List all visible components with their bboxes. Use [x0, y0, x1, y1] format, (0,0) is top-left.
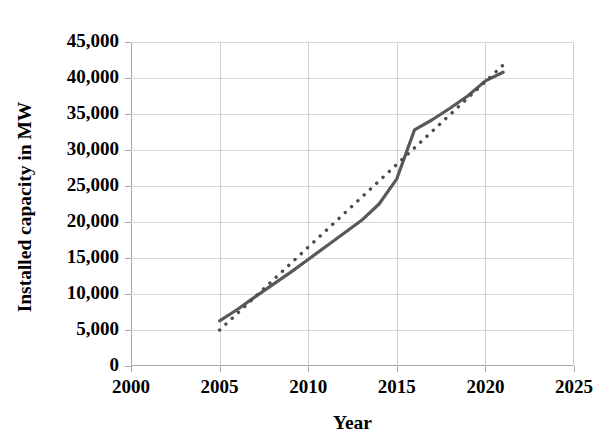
x-axis-tick-label: 2010 — [263, 376, 353, 398]
x-axis-tick — [397, 366, 398, 372]
y-axis-tick-label: 45,000 — [9, 30, 119, 52]
y-axis-tick-label: 40,000 — [9, 66, 119, 88]
x-axis-tick — [220, 366, 221, 372]
x-axis-tick — [308, 366, 309, 372]
y-axis-tick-label: 5,000 — [9, 318, 119, 340]
y-axis-tick-label: 15,000 — [9, 246, 119, 268]
y-axis-tick-label: 10,000 — [9, 282, 119, 304]
x-axis-tick-label: 2025 — [529, 376, 612, 398]
x-axis-tick — [485, 366, 486, 372]
y-axis-tick-label: 25,000 — [9, 174, 119, 196]
x-axis-tick-label: 2020 — [440, 376, 530, 398]
y-axis-tick-label: 35,000 — [9, 102, 119, 124]
data-line-series — [220, 72, 504, 321]
x-axis-tick-label: 2015 — [352, 376, 442, 398]
y-axis-tick-label: 30,000 — [9, 138, 119, 160]
y-axis-tick-label: 0 — [9, 354, 119, 376]
chart-root: Installed capacity in MW 05,00010,00015,… — [0, 0, 612, 444]
x-axis-tick-label: 2005 — [175, 376, 265, 398]
x-axis-tick — [131, 366, 132, 372]
chart-title-remnant — [150, 0, 470, 3]
y-axis-tick-label: 20,000 — [9, 210, 119, 232]
x-axis-title: Year — [131, 412, 574, 434]
x-axis-tick — [574, 366, 575, 372]
plot-area — [131, 42, 574, 366]
series-layer — [131, 42, 574, 366]
x-axis-tick-label: 2000 — [86, 376, 176, 398]
